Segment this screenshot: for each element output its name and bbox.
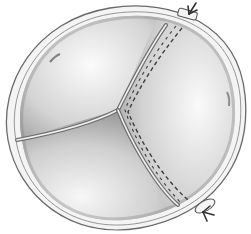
valve-illustration xyxy=(0,0,251,234)
